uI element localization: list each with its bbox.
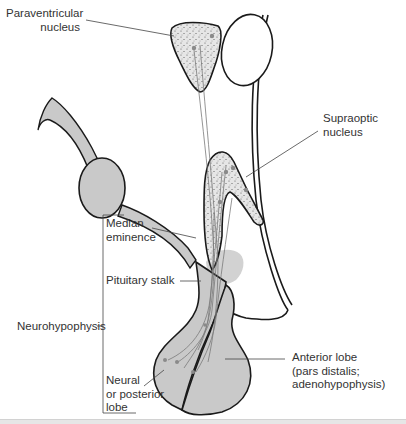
bottom-border xyxy=(0,419,406,424)
label-median-eminence: Median eminence xyxy=(106,217,156,244)
label-supraoptic-nucleus: Supraoptic nucleus xyxy=(323,112,378,139)
label-neural-posterior-lobe: Neural or posterior lobe xyxy=(106,374,164,415)
label-anterior-lobe: Anterior lobe (pars distalis; adenohypop… xyxy=(292,351,385,392)
paraventricular-nucleus-shape xyxy=(171,23,221,93)
label-paraventricular-nucleus: Paraventricular nucleus xyxy=(6,7,80,34)
label-neurohypophysis: Neurohypophysis xyxy=(17,320,106,334)
label-pituitary-stalk: Pituitary stalk xyxy=(106,274,174,288)
